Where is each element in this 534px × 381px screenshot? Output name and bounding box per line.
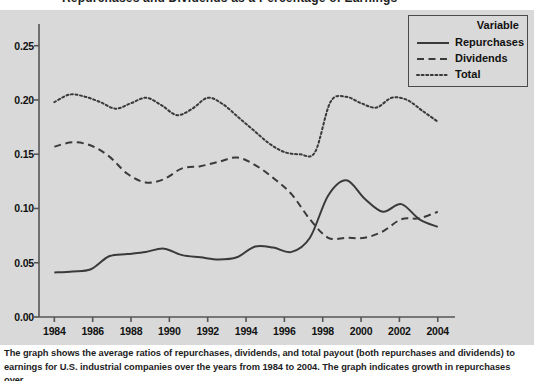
figure-title-cropped: Repurchases and Dividends as a Percentag… <box>0 0 534 10</box>
legend-item-total: Total <box>415 67 523 82</box>
legend-item-dividends: Dividends <box>415 51 523 66</box>
figure-caption: The graph shows the average ratios of re… <box>0 345 534 381</box>
x-tick-label: 1988 <box>111 325 151 337</box>
y-tick-label: 0.20 <box>0 94 34 106</box>
series-line-repurchases <box>54 180 437 272</box>
x-tick-label: 2004 <box>418 325 458 337</box>
x-tick-label: 2002 <box>379 325 419 337</box>
x-tick-label: 2000 <box>341 325 381 337</box>
series-line-dividends <box>54 142 437 239</box>
legend-key-dotted-icon <box>415 67 451 82</box>
legend-key-solid-icon <box>415 35 451 50</box>
series-line-total <box>54 94 437 156</box>
y-tick-label: 0.15 <box>0 148 34 160</box>
x-tick-label: 1998 <box>303 325 343 337</box>
legend-item-repurchases: Repurchases <box>415 35 523 50</box>
legend-item-label: Total <box>455 68 480 80</box>
x-tick-label: 1992 <box>188 325 228 337</box>
x-tick-label: 1984 <box>34 325 74 337</box>
x-tick-label: 1996 <box>264 325 304 337</box>
figure-caption-text: The graph shows the average ratios of re… <box>0 345 534 381</box>
legend-item-label: Dividends <box>455 52 508 64</box>
figure-title-text: Repurchases and Dividends as a Percentag… <box>62 0 397 5</box>
y-tick-label: 0.25 <box>0 40 34 52</box>
x-tick-label: 1994 <box>226 325 266 337</box>
legend-item-label: Repurchases <box>455 36 524 48</box>
figure-root: Repurchases and Dividends as a Percentag… <box>0 0 534 381</box>
x-tick-label: 1986 <box>73 325 113 337</box>
y-tick-label: 0.00 <box>0 311 34 323</box>
y-tick-label: 0.05 <box>0 257 34 269</box>
legend-title: Variable <box>477 19 519 31</box>
chart-legend: Variable RepurchasesDividendsTotal <box>408 15 528 87</box>
legend-key-dashed-icon <box>415 51 451 66</box>
y-tick-label: 0.10 <box>0 202 34 214</box>
chart-panel: 0.000.050.100.150.200.25 198419861988199… <box>0 10 534 345</box>
x-tick-label: 1990 <box>149 325 189 337</box>
